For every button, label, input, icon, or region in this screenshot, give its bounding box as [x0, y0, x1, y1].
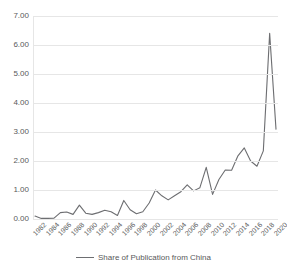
- cropped-chart-title: [150, 0, 287, 7]
- y-axis-tick-3.00: 3.00: [13, 128, 29, 136]
- y-axis-tick-5.00: 5.00: [13, 70, 29, 78]
- y-axis-tick-1.00: 1.00: [13, 186, 29, 194]
- x-axis-tick-2002: 2002: [158, 221, 174, 237]
- gridline-2.00: [33, 161, 278, 162]
- x-axis-tick-2014: 2014: [235, 221, 251, 237]
- x-axis-tick-2008: 2008: [196, 221, 212, 237]
- gridline-3.00: [33, 132, 278, 133]
- gridline-7.00: [33, 16, 278, 17]
- gridline-1.00: [33, 190, 278, 191]
- plot-area: [33, 16, 278, 219]
- x-axis-tick-1982: 1982: [32, 221, 48, 237]
- gridline-5.00: [33, 74, 278, 75]
- x-axis-tick-2000: 2000: [146, 221, 162, 237]
- y-axis-tick-7.00: 7.00: [13, 12, 29, 20]
- x-axis-labels: 1982198419861988199019921994199619982000…: [33, 221, 278, 247]
- series-line-chart: [33, 16, 278, 219]
- y-axis-tick-2.00: 2.00: [13, 157, 29, 165]
- x-axis-tick-1994: 1994: [108, 221, 124, 237]
- y-axis-tick-6.00: 6.00: [13, 41, 29, 49]
- y-axis-tick-4.00: 4.00: [13, 99, 29, 107]
- x-axis-tick-1988: 1988: [70, 221, 86, 237]
- chart-legend: Share of Publication from China: [0, 251, 287, 263]
- gridline-4.00: [33, 103, 278, 104]
- y-axis-tick-0.00: 0.00: [13, 215, 29, 223]
- x-axis-tick-2020: 2020: [273, 221, 287, 237]
- chart-container: 7.006.005.004.003.002.001.000.00 1982198…: [0, 0, 287, 265]
- legend-line-swatch: [76, 257, 94, 258]
- legend-label-share-of-publication-from-china: Share of Publication from China: [98, 253, 211, 262]
- gridline-6.00: [33, 45, 278, 46]
- gridline-0.00: [33, 219, 278, 220]
- y-axis-labels: 7.006.005.004.003.002.001.000.00: [0, 0, 31, 265]
